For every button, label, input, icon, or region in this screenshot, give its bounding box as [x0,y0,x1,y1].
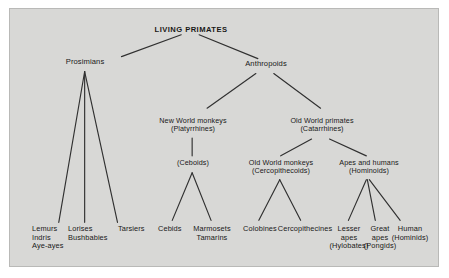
node-ceboids: (Ceboids) [177,159,209,167]
edge-root-prosimians [121,35,181,57]
leaf-marmosets-line2: Tamarins [193,234,230,243]
node-old-world-primates: Old World primates (Catarrhines) [290,117,353,134]
node-old-world-primates-sublabel: (Catarrhines) [290,125,353,133]
edge-oldworld-apes [330,139,367,156]
edge-anthropoids-oldworld [274,73,321,108]
leaf-lesser-apes: Lesser apes (Hylobates) [330,225,369,251]
edge-ceboids-marmosets [192,173,211,221]
edge-owm-colobines [259,180,280,221]
leaf-cercopithecines: Cercopithecines [278,225,333,234]
leaf-human-line2: (Hominids) [392,234,429,243]
node-anthropoids: Anthropoids [245,60,287,69]
node-old-world-monkeys: Old World monkeys (Cercopithecoids) [249,159,313,176]
edge-root-anthropoids [199,35,258,59]
leaf-human: Human (Hominids) [392,225,429,242]
node-prosimians: Prosimians [66,58,105,67]
edge-anthropoids-newworld [207,73,256,108]
node-apes-and-humans: Apes and humans (Hominoids) [339,159,398,176]
node-new-world-monkeys-sublabel: (Platyrrhines) [159,125,226,133]
primate-classification-diagram: LIVING PRIMATES Prosimians Anthropoids N… [9,8,439,267]
edge-oldworld-owm [281,139,312,156]
edge-ceboids-cebids [172,173,192,221]
node-living-primates-label: LIVING PRIMATES [155,26,228,35]
leaf-cebids: Cebids [158,225,182,234]
edge-prosimians-tarsiers [85,72,118,223]
node-living-primates: LIVING PRIMATES [155,26,228,35]
leaf-colobines: Colobines [243,225,277,234]
leaf-cercopithecines-line1: Cercopithecines [278,225,333,234]
leaf-great-apes-line3: (Pongids) [364,242,397,251]
node-new-world-monkeys: New World monkeys (Platyrrhines) [159,117,226,134]
leaf-tarsiers-line1: Tarsiers [118,225,145,234]
leaf-lorises: Lorises Bushbabies [68,225,108,242]
leaf-tarsiers: Tarsiers [118,225,145,234]
edge-prosimians-lemurs [59,72,85,223]
node-anthropoids-label: Anthropoids [245,60,287,69]
edge-apes-great [367,180,375,221]
leaf-marmosets-tamarins: Marmosets Tamarins [193,225,230,242]
leaf-colobines-line1: Colobines [243,225,277,234]
leaf-cebids-line1: Cebids [158,225,182,234]
edge-owm-cercopithecines [280,180,301,221]
leaf-lemurs: Lemurs Indris Aye-ayes [32,225,63,251]
leaf-lorises-line2: Bushbabies [68,234,108,243]
leaf-lesser-apes-line3: (Hylobates) [330,242,369,251]
node-ceboids-label: (Ceboids) [177,159,209,167]
edge-apes-human [369,180,400,221]
node-prosimians-label: Prosimians [66,58,105,67]
edge-apes-lesser [348,180,366,221]
node-apes-and-humans-sublabel: (Hominoids) [339,167,398,175]
leaf-lemurs-line3: Aye-ayes [32,242,63,251]
node-old-world-monkeys-sublabel: (Cercopithecoids) [249,167,313,175]
